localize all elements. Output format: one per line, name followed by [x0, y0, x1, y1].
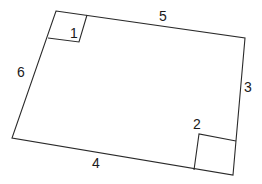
quadrilateral-outline [12, 11, 245, 175]
right-angle-marker-2 [194, 134, 236, 170]
diagram-canvas: 5 3 4 6 1 2 [0, 0, 262, 184]
side-label-right: 3 [244, 79, 252, 95]
angle-label-2: 2 [193, 116, 201, 132]
angle-label-1: 1 [70, 25, 78, 41]
side-label-bottom: 4 [92, 155, 100, 171]
right-angle-marker-1 [48, 15, 87, 42]
side-label-left: 6 [17, 64, 25, 80]
side-label-top: 5 [159, 8, 167, 24]
